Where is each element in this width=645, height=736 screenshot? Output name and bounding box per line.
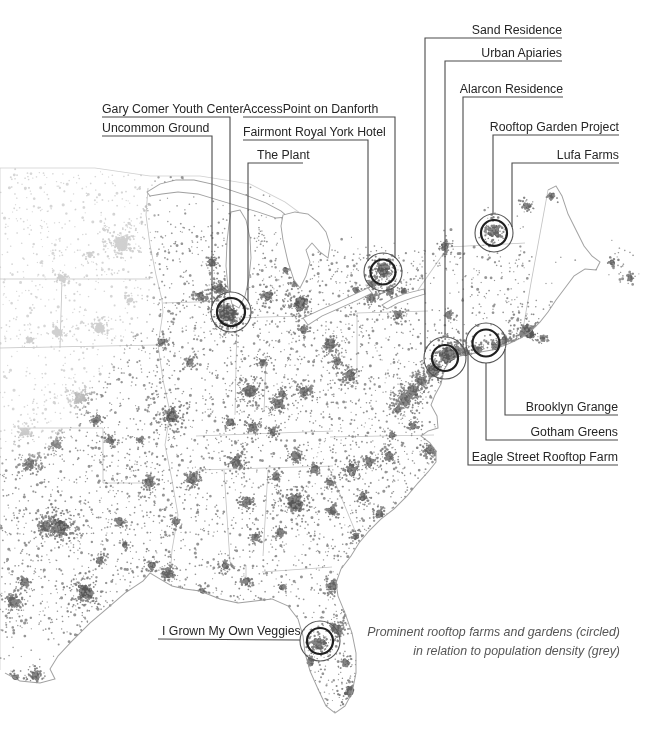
map-caption: Prominent rooftop farms and gardens (cir…: [367, 623, 620, 661]
caption-line-1: Prominent rooftop farms and gardens (cir…: [367, 623, 620, 642]
rooftop-farms-map-figure: Sand ResidenceUrban ApiariesAlarcon Resi…: [0, 0, 645, 736]
caption-line-2: in relation to population density (grey): [367, 642, 620, 661]
